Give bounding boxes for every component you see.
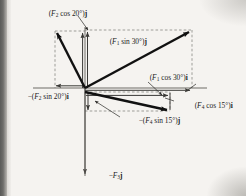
diagram-labels: (F2 cos 20°)j (F1 sin 30°)j (F1 cos 30°)…	[11, 9, 246, 180]
label-neg-f4-sin15-j: −(F4 sin 15°)j	[122, 116, 193, 125]
leader-f4-cos15-i-upper	[148, 82, 162, 95]
label-f4-cos15-i: (F4 cos 15°)i	[178, 101, 246, 110]
label-f1-sin30-j: (F1 sin 30°)j	[93, 37, 160, 46]
scanned-page: (F2 cos 20°)j (F1 sin 30°)j (F1 cos 30°)…	[0, 0, 246, 196]
label-f2-cos20-j: (F2 cos 20°)j	[32, 9, 100, 18]
label-neg-f2-sin20-i: −(F2 sin 20°)i	[11, 92, 82, 101]
vector-f4	[85, 92, 167, 110]
leader-f4-cos15-i	[165, 98, 174, 101]
leader-neg-f4-sin15-j	[95, 101, 120, 117]
label-neg-f3-j: −F3j	[92, 171, 135, 180]
leader-f1-cos30-i	[188, 84, 196, 90]
vector-f2	[57, 33, 85, 88]
label-f1-cos30-i: (F1 cos 30°)i	[133, 73, 201, 82]
leader-f2-cos20-j	[78, 16, 88, 30]
component-arrows	[56, 32, 190, 174]
force-vector-diagram: (F2 cos 20°)j (F1 sin 30°)j (F1 cos 30°)…	[0, 0, 246, 196]
